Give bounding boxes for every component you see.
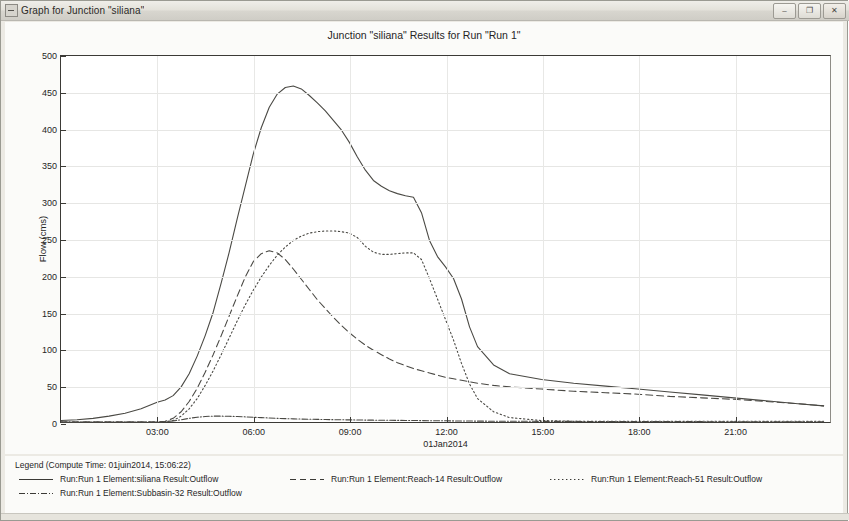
gridline-vertical: [447, 56, 448, 422]
y-tick-mark: [61, 387, 66, 388]
y-tick-label: 350: [42, 161, 57, 171]
legend-item-reach-14[interactable]: Run:Run 1 Element:Reach-14 Result:Outflo…: [290, 474, 502, 484]
plot-inner: Flow (cms) 05010015020025030035040045050…: [61, 56, 830, 422]
legend-swatch-dashed-icon: [290, 475, 324, 484]
gridline-horizontal: [61, 166, 830, 167]
legend-item-reach-51[interactable]: Run:Run 1 Element:Reach-51 Result:Outflo…: [550, 474, 762, 484]
y-tick-label: 500: [42, 51, 57, 61]
x-tick-mark: [639, 417, 640, 422]
legend-label-subbasin-32: Run:Run 1 Element:Subbasin-32 Result:Out…: [60, 488, 242, 498]
legend-swatch-dotted-icon: [550, 475, 584, 484]
gridline-vertical: [543, 56, 544, 422]
y-tick-mark: [61, 314, 66, 315]
y-tick-mark: [61, 350, 66, 351]
titlebar-left-group: Graph for Junction "siliana": [1, 4, 773, 17]
x-tick-mark: [254, 417, 255, 422]
legend-header: Legend (Compute Time: 01juin2014, 15:06:…: [15, 460, 191, 470]
legend-swatch-solid-icon: [19, 475, 53, 484]
gridline-horizontal: [61, 130, 830, 131]
gridline-horizontal: [61, 203, 830, 204]
y-tick-label: 400: [42, 125, 57, 135]
y-tick-mark: [61, 166, 66, 167]
plot-area[interactable]: Flow (cms) 05010015020025030035040045050…: [60, 55, 831, 423]
y-tick-mark: [61, 93, 66, 94]
gridline-horizontal: [61, 277, 830, 278]
legend-item-subbasin-32[interactable]: Run:Run 1 Element:Subbasin-32 Result:Out…: [19, 488, 242, 498]
gridline-horizontal: [61, 93, 830, 94]
y-tick-mark: [61, 56, 66, 57]
restore-button[interactable]: ❐: [798, 3, 821, 19]
minimize-button[interactable]: –: [773, 3, 796, 19]
y-tick-mark: [61, 424, 66, 425]
x-tick-label: 09:00: [339, 427, 362, 437]
graph-window-icon: [5, 4, 18, 17]
x-tick-mark: [736, 417, 737, 422]
y-tick-label: 0: [52, 419, 57, 429]
legend-label-reach-14: Run:Run 1 Element:Reach-14 Result:Outflo…: [331, 474, 502, 484]
x-tick-label: 18:00: [628, 427, 651, 437]
minimize-icon: –: [774, 4, 795, 18]
legend-item-siliana[interactable]: Run:Run 1 Element:siliana Result:Outflow: [19, 474, 218, 484]
gridline-vertical: [254, 56, 255, 422]
chart-title: Junction "siliana" Results for Run "Run …: [5, 29, 843, 41]
gridline-vertical: [157, 56, 158, 422]
legend-panel: Legend (Compute Time: 01juin2014, 15:06:…: [5, 456, 843, 516]
x-tick-label: 03:00: [146, 427, 169, 437]
x-tick-label: 06:00: [242, 427, 265, 437]
window-title: Graph for Junction "siliana": [21, 5, 144, 16]
restore-icon: ❐: [799, 4, 820, 18]
legend-swatch-dashdot-icon: [19, 489, 53, 498]
x-tick-label: 15:00: [532, 427, 555, 437]
y-tick-label: 250: [42, 235, 57, 245]
close-icon: ✕: [824, 4, 845, 18]
y-tick-mark: [61, 203, 66, 204]
window-titlebar: Graph for Junction "siliana" – ❐ ✕: [1, 1, 849, 21]
y-tick-mark: [61, 277, 66, 278]
y-tick-label: 50: [47, 382, 57, 392]
x-tick-label: 12:00: [435, 427, 458, 437]
legend-label-siliana: Run:Run 1 Element:siliana Result:Outflow: [60, 474, 218, 484]
x-tick-mark: [350, 417, 351, 422]
x-tick-label: 21:00: [724, 427, 747, 437]
gridline-horizontal: [61, 350, 830, 351]
gridline-vertical: [639, 56, 640, 422]
close-button[interactable]: ✕: [823, 3, 846, 19]
y-tick-label: 100: [42, 345, 57, 355]
x-tick-mark: [543, 417, 544, 422]
y-tick-mark: [61, 130, 66, 131]
chart-area: Junction "siliana" Results for Run "Run …: [5, 22, 843, 454]
series-line: [61, 86, 824, 421]
window-controls: – ❐ ✕: [773, 3, 849, 19]
gridline-horizontal: [61, 240, 830, 241]
gridline-horizontal: [61, 387, 830, 388]
legend-label-reach-51: Run:Run 1 Element:Reach-51 Result:Outflo…: [591, 474, 762, 484]
gridline-horizontal: [61, 314, 830, 315]
y-tick-label: 150: [42, 309, 57, 319]
y-tick-mark: [61, 240, 66, 241]
window-statusbar: [1, 513, 849, 520]
x-tick-mark: [157, 417, 158, 422]
x-tick-mark: [447, 417, 448, 422]
y-tick-label: 200: [42, 272, 57, 282]
gridline-vertical: [736, 56, 737, 422]
y-tick-label: 450: [42, 88, 57, 98]
x-axis-label: 01Jan2014: [61, 439, 830, 449]
gridline-vertical: [350, 56, 351, 422]
series-lines: [61, 56, 830, 422]
y-tick-label: 300: [42, 198, 57, 208]
